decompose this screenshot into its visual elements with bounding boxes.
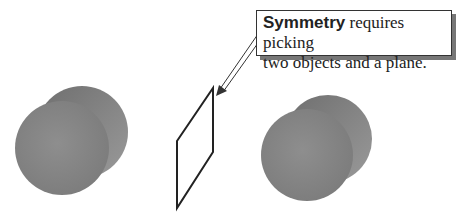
callout-keyword: Symmetry — [263, 13, 345, 32]
mirror-plane[interactable] — [177, 88, 213, 208]
right-cylinder[interactable] — [261, 95, 372, 201]
callout-box: Symmetry requires picking two objects an… — [256, 10, 452, 56]
left-cylinder[interactable] — [15, 86, 128, 195]
callout-text-line2: two objects and a plane. — [263, 53, 427, 72]
